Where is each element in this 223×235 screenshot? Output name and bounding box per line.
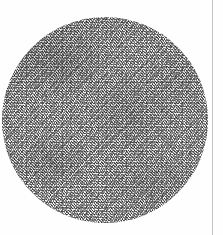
- dark-speck: [175, 77, 176, 78]
- dark-speck: [189, 152, 190, 153]
- dark-speck: [151, 195, 152, 196]
- dark-speck: [62, 169, 63, 170]
- vertical-ruled-line: [212, 0, 213, 235]
- scanned-page: [0, 0, 223, 235]
- dark-speck: [25, 165, 27, 167]
- dark-speck: [91, 128, 93, 130]
- dark-speck: [45, 95, 46, 96]
- dark-speck: [117, 57, 118, 58]
- grain-disk: [2, 17, 208, 223]
- disk-edge-feather: [2, 17, 208, 223]
